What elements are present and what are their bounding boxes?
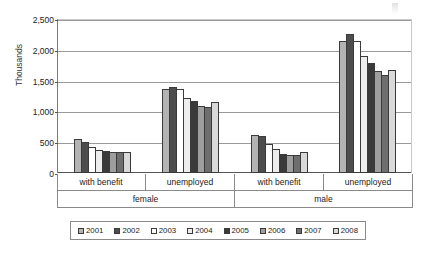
- chart-legend: 20012002200320042005200620072008: [70, 221, 366, 240]
- bar: [95, 150, 103, 173]
- bar: [116, 152, 124, 173]
- legend-item[interactable]: 2003: [151, 226, 176, 235]
- legend-label: 2006: [268, 226, 285, 235]
- bar-chart: Thousands 05001,0001,5002,0002,500 with …: [0, 0, 423, 258]
- category-band-right-edge: [412, 174, 413, 208]
- bar: [211, 102, 219, 173]
- bar-group: [146, 20, 234, 173]
- bar-group: [235, 20, 323, 173]
- category-label: unemployed: [324, 174, 412, 190]
- bar: [176, 89, 184, 173]
- supercategory-labels: femalemale: [57, 191, 412, 208]
- legend-item[interactable]: 2001: [78, 226, 103, 235]
- bar: [123, 152, 131, 173]
- bar: [251, 135, 259, 173]
- y-axis-tick-label: 1,500: [33, 77, 54, 87]
- y-axis-title: Thousands: [14, 20, 24, 110]
- legend-label: 2007: [304, 226, 321, 235]
- bar: [190, 101, 198, 173]
- bar: [286, 155, 294, 173]
- bar: [258, 136, 266, 173]
- bar: [388, 70, 396, 173]
- y-axis-tick-label: 2,000: [33, 46, 54, 56]
- supercategory-label: female: [57, 191, 235, 207]
- legend-swatch-icon: [114, 228, 120, 234]
- bar: [360, 56, 368, 173]
- scan-artifact: [392, 3, 398, 14]
- legend-item[interactable]: 2008: [333, 226, 358, 235]
- bar: [204, 107, 212, 173]
- supercategory-label: male: [235, 191, 412, 207]
- bar: [102, 151, 110, 173]
- bar: [293, 155, 301, 173]
- legend-item[interactable]: 2004: [187, 226, 212, 235]
- legend-swatch-icon: [151, 228, 157, 234]
- bar: [183, 98, 191, 173]
- legend-swatch-icon: [78, 228, 84, 234]
- legend-label: 2002: [122, 226, 139, 235]
- legend-swatch-icon: [187, 228, 193, 234]
- bar-groups: [58, 20, 411, 173]
- legend-label: 2004: [195, 226, 212, 235]
- bar: [279, 154, 287, 173]
- category-label: unemployed: [146, 174, 235, 190]
- legend-label: 2005: [232, 226, 249, 235]
- bar-group: [323, 20, 411, 173]
- legend-item[interactable]: 2006: [260, 226, 285, 235]
- legend-item[interactable]: 2007: [296, 226, 321, 235]
- legend-swatch-icon: [260, 228, 266, 234]
- bar: [88, 147, 96, 173]
- y-axis-tick-label: 2,500: [33, 15, 54, 25]
- bar: [109, 152, 117, 173]
- bar: [346, 34, 354, 173]
- bar: [162, 89, 170, 173]
- bar: [265, 144, 273, 173]
- bar: [300, 152, 308, 173]
- plot-area: 05001,0001,5002,0002,500: [57, 19, 412, 173]
- bar: [339, 41, 347, 173]
- y-axis-tick-label: 0: [49, 169, 54, 179]
- legend-swatch-icon: [333, 228, 339, 234]
- bar: [381, 75, 389, 173]
- bar: [374, 71, 382, 173]
- bar: [367, 63, 375, 173]
- bar-group: [58, 20, 146, 173]
- legend-item[interactable]: 2005: [224, 226, 249, 235]
- bar: [197, 106, 205, 173]
- y-axis-tick-label: 500: [40, 138, 54, 148]
- bar: [272, 149, 280, 173]
- legend-label: 2001: [86, 226, 103, 235]
- legend-swatch-icon: [224, 228, 230, 234]
- category-labels: with benefitunemployedwith benefitunempl…: [57, 174, 412, 191]
- bar: [74, 139, 82, 173]
- legend-swatch-icon: [296, 228, 302, 234]
- category-label: with benefit: [235, 174, 324, 190]
- legend-item[interactable]: 2002: [114, 226, 139, 235]
- bar: [81, 142, 89, 173]
- bar: [353, 41, 361, 173]
- y-axis-tick-label: 1,000: [33, 107, 54, 117]
- category-label: with benefit: [57, 174, 146, 190]
- bar: [169, 87, 177, 173]
- legend-label: 2008: [341, 226, 358, 235]
- legend-label: 2003: [159, 226, 176, 235]
